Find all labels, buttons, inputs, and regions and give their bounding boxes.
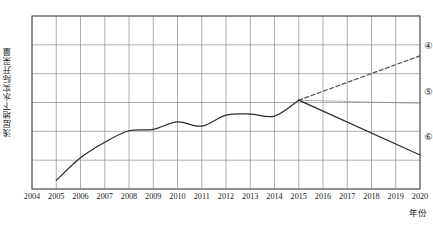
x-tick-2012: 2012 <box>218 192 234 201</box>
x-tick-2011: 2011 <box>194 192 210 201</box>
x-tick-2006: 2006 <box>72 192 88 201</box>
legend-marker-⑤: ⑤ <box>424 87 433 97</box>
x-tick-2013: 2013 <box>242 192 258 201</box>
series-line-④ <box>299 56 420 100</box>
series-group <box>56 56 420 181</box>
x-tick-2019: 2019 <box>388 192 404 201</box>
series-line-⑥ <box>299 100 420 155</box>
x-tick-2018: 2018 <box>363 192 379 201</box>
x-tick-2015: 2015 <box>291 192 307 201</box>
x-tick-2017: 2017 <box>339 192 355 201</box>
x-tick-2008: 2008 <box>121 192 137 201</box>
legend-marker-⑥: ⑥ <box>424 132 433 142</box>
x-tick-2016: 2016 <box>315 192 331 201</box>
chart-root: 浅层地下水实际开采量 20042005200620072008200920102… <box>0 0 433 231</box>
series-line-⑤ <box>299 100 420 103</box>
x-tick-2009: 2009 <box>145 192 161 201</box>
x-tick-2020: 2020 <box>412 192 428 201</box>
x-tick-2004: 2004 <box>24 192 40 201</box>
grid-lines <box>32 16 420 189</box>
x-tick-2007: 2007 <box>97 192 113 201</box>
x-axis-label: 年份 <box>409 206 427 218</box>
x-tick-2014: 2014 <box>266 192 282 201</box>
legend-marker-④: ④ <box>424 42 433 52</box>
x-tick-2005: 2005 <box>48 192 64 201</box>
x-tick-2010: 2010 <box>169 192 185 201</box>
